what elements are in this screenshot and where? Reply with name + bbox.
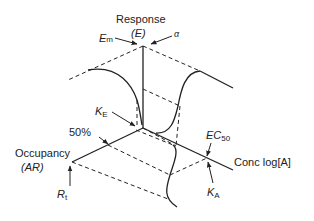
dashed-50pct: [108, 145, 170, 175]
response-conc-plateau: [200, 71, 233, 88]
alpha-label: α: [174, 30, 179, 39]
fifty-percent-arrow: [99, 137, 108, 144]
ka-arrow: [208, 162, 213, 183]
response-axis-label: Response: [116, 14, 166, 25]
dashed-base-2: [136, 130, 173, 145]
ke-label: KE: [95, 106, 108, 119]
ke-arrow: [112, 112, 135, 126]
occupancy-conc-curve: [167, 145, 177, 207]
diagram-canvas: [0, 0, 314, 221]
conc-axis-label: Conc log[A]: [234, 157, 291, 168]
dashed-em-right: [143, 46, 200, 71]
fifty-percent-label: 50%: [69, 127, 91, 138]
dashed-em-left: [68, 46, 143, 80]
em-label: Em: [99, 33, 113, 44]
dashed-ka: [170, 158, 207, 175]
occupancy-axis-label: Occupancy: [15, 148, 70, 159]
ka-label: KA: [207, 187, 220, 200]
dashed-half-response: [143, 89, 180, 106]
ec50-label: EC50: [206, 130, 230, 143]
alpha-arrow: [151, 36, 172, 44]
response-symbol: (E): [131, 28, 146, 39]
occupancy-symbol: (AR): [21, 162, 44, 173]
ec50-arrow: [207, 143, 211, 156]
rt-label: Rt: [57, 189, 67, 202]
